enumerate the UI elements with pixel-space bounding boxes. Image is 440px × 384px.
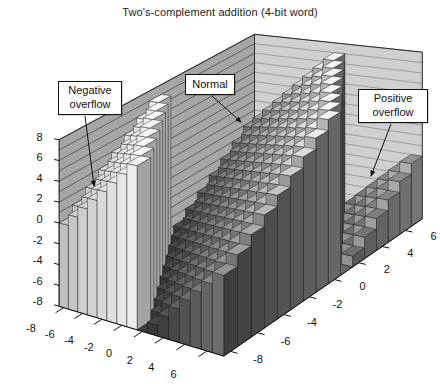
bar-front-face	[127, 164, 137, 330]
x-tick-label: 4	[148, 361, 154, 373]
z-tick-label: 6	[36, 151, 42, 163]
z-tick	[54, 305, 59, 307]
y-tick-label: 6	[430, 230, 436, 242]
z-tick	[54, 243, 59, 244]
y-tick	[334, 280, 341, 282]
annotation-normal: Normal	[185, 74, 235, 95]
bar-front-face	[117, 172, 127, 326]
z-tick-label: -4	[33, 254, 43, 266]
y-tick	[382, 247, 389, 249]
two-complement-addition-figure: -8-6-4-20246-8-6-4-20246-8-6-4-202468 Tw…	[0, 0, 440, 384]
x-tick	[134, 332, 142, 337]
bar-front-face	[201, 281, 212, 353]
bar-side-face	[224, 266, 238, 356]
x-tick-label: -6	[45, 328, 55, 340]
x-tick	[94, 319, 102, 324]
x-tick	[74, 313, 82, 318]
z-tick-label: -2	[33, 234, 43, 246]
x-tick-label: -2	[84, 341, 94, 353]
annotation-negative-overflow: Negative overflow	[58, 81, 122, 115]
annotation-label: Normal	[192, 78, 227, 92]
z-tick-label: 2	[36, 192, 42, 204]
bar-front-face	[179, 298, 190, 346]
x-tick-label: -8	[26, 322, 36, 334]
bar-front-face	[87, 198, 97, 318]
bar-side-face	[251, 226, 264, 337]
x-tick	[114, 325, 122, 330]
x-tick-label: 0	[106, 347, 112, 359]
x-tick-label: -4	[64, 334, 74, 346]
x-tick	[199, 351, 207, 357]
z-tick	[54, 263, 59, 264]
y-tick	[310, 297, 317, 299]
y-tick-label: 0	[359, 280, 365, 292]
bar-front-face	[59, 223, 68, 309]
x-tick	[56, 308, 64, 313]
y-tick-label: 2	[384, 263, 390, 275]
z-tick	[54, 160, 59, 161]
bar-side-face	[277, 187, 290, 319]
z-tick-label: -8	[33, 295, 43, 307]
bar-front-face	[190, 289, 201, 349]
bar-side-face	[316, 131, 328, 293]
chart-canvas: -8-6-4-20246-8-6-4-20246-8-6-4-202468	[0, 0, 440, 384]
y-tick	[258, 333, 265, 335]
bar-side-face	[137, 158, 151, 330]
x-tick-label: 2	[127, 354, 133, 366]
y-tick-label: 4	[407, 247, 413, 259]
z-tick	[54, 284, 59, 286]
annotation-label: Negative overflow	[61, 84, 119, 112]
y-tick	[231, 351, 238, 353]
x-tick	[176, 344, 184, 350]
x-tick-label: 6	[170, 368, 176, 380]
y-tick-label: -4	[307, 316, 317, 328]
y-tick	[359, 263, 366, 265]
annotation-positive-overflow: Positive overflow	[358, 89, 428, 123]
y-tick-label: -8	[253, 353, 263, 365]
bar-side-face	[264, 207, 277, 329]
z-tick-label: -6	[33, 275, 43, 287]
annotation-label: Positive overflow	[361, 92, 425, 120]
bar-side-face	[290, 168, 303, 310]
bar-side-face	[400, 174, 411, 234]
bar-side-face	[388, 192, 400, 242]
bar-side-face	[328, 112, 340, 284]
z-tick	[54, 139, 59, 140]
bar-front-face	[78, 207, 88, 315]
bar-side-face	[303, 149, 316, 301]
z-tick	[54, 201, 59, 202]
y-tick-label: -6	[281, 335, 291, 347]
x-tick	[155, 338, 163, 344]
z-tick-label: 0	[36, 213, 42, 225]
y-tick	[405, 231, 412, 233]
bar-front-face	[169, 306, 180, 343]
chart-title: Two's-complement addition (4-bit word)	[0, 6, 440, 18]
y-tick-label: -2	[333, 298, 343, 310]
bar-side-face	[411, 156, 422, 226]
bar-front-face	[212, 272, 223, 356]
z-tick-label: 8	[36, 131, 42, 143]
z-tick-label: 4	[36, 172, 42, 184]
bar-front-face	[158, 314, 169, 339]
bar-side-face	[238, 246, 252, 347]
z-tick	[54, 222, 59, 223]
y-tick	[284, 315, 291, 317]
bar-front-face	[68, 215, 77, 312]
bar-front-face	[97, 190, 107, 321]
bar-front-face	[107, 181, 117, 324]
z-tick	[54, 180, 59, 181]
